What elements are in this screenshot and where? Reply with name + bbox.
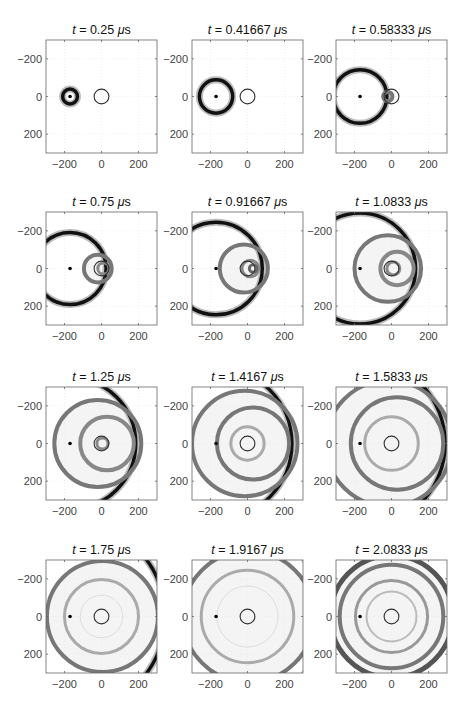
svg-text:0: 0 [36,611,42,623]
svg-text:200: 200 [314,648,332,660]
wavefield-plot: −2000200−2000200 [6,560,157,697]
svg-text:−200: −200 [17,400,42,412]
svg-text:−200: −200 [52,505,77,517]
svg-text:0: 0 [98,158,104,170]
svg-text:−200: −200 [198,678,223,690]
svg-text:0: 0 [182,438,188,450]
svg-text:0: 0 [326,91,332,103]
wavefield-plot: −2000200−2000200 [296,387,447,524]
svg-text:0: 0 [98,330,104,342]
subplot-panel: t = 1.4167 μs−2000200−2000200 [192,387,303,500]
svg-text:200: 200 [129,158,147,170]
svg-text:0: 0 [36,91,42,103]
wavefield-plot: −2000200−2000200 [6,40,157,177]
svg-text:−200: −200 [342,505,367,517]
svg-text:−200: −200 [307,53,332,65]
svg-text:0: 0 [244,505,250,517]
wavefield-plot: −2000200−2000200 [296,212,447,349]
svg-text:0: 0 [388,678,394,690]
svg-text:−200: −200 [307,400,332,412]
svg-text:−200: −200 [342,330,367,342]
subplot-panel: t = 1.0833 μs−2000200−2000200 [336,212,447,325]
subplot-title: t = 1.4167 μs [178,370,318,384]
subplot-panel: t = 2.0833 μs−2000200−2000200 [336,560,447,673]
svg-text:200: 200 [314,475,332,487]
svg-text:−200: −200 [198,505,223,517]
svg-text:0: 0 [36,263,42,275]
svg-text:200: 200 [129,505,147,517]
svg-text:200: 200 [419,158,437,170]
svg-text:200: 200 [170,648,188,660]
subplot-title: t = 2.0833 μs [322,543,462,557]
svg-text:200: 200 [129,678,147,690]
subplot-panel: t = 0.91667 μs−2000200−2000200 [192,212,303,325]
svg-text:0: 0 [182,263,188,275]
svg-text:0: 0 [388,505,394,517]
wavefield-plot: −2000200−2000200 [152,40,303,177]
subplot-title: t = 1.25 μs [32,370,172,384]
svg-text:200: 200 [419,330,437,342]
svg-text:200: 200 [275,678,293,690]
subplot-panel: t = 0.58333 μs−2000200−2000200 [336,40,447,153]
svg-text:−200: −200 [52,158,77,170]
wavefield-plot: −2000200−2000200 [152,387,303,524]
subplot-title: t = 0.58333 μs [322,23,462,37]
subplot-title: t = 1.9167 μs [178,543,318,557]
subplot-title: t = 0.41667 μs [178,23,318,37]
svg-text:−200: −200 [17,573,42,585]
subplot-panel: t = 1.25 μs−2000200−2000200 [46,387,157,500]
svg-text:200: 200 [24,128,42,140]
svg-text:−200: −200 [342,158,367,170]
subplot-panel: t = 0.25 μs−2000200−2000200 [46,40,157,153]
wavefield-plot: −2000200−2000200 [152,560,303,697]
svg-text:−200: −200 [198,158,223,170]
svg-text:−200: −200 [52,678,77,690]
svg-text:200: 200 [275,330,293,342]
subplot-title: t = 0.75 μs [32,195,172,209]
svg-text:0: 0 [244,678,250,690]
svg-text:−200: −200 [163,400,188,412]
svg-text:200: 200 [275,505,293,517]
svg-text:200: 200 [24,648,42,660]
svg-text:−200: −200 [342,678,367,690]
svg-text:−200: −200 [163,225,188,237]
svg-text:−200: −200 [163,53,188,65]
svg-text:−200: −200 [198,330,223,342]
subplot-title: t = 0.25 μs [32,23,172,37]
subplot-panel: t = 0.41667 μs−2000200−2000200 [192,40,303,153]
wavefield-plot: −2000200−2000200 [6,212,157,349]
svg-text:0: 0 [98,505,104,517]
wavefield-plot: −2000200−2000200 [296,560,447,697]
subplot-panel: t = 1.9167 μs−2000200−2000200 [192,560,303,673]
svg-text:0: 0 [98,678,104,690]
svg-text:200: 200 [314,300,332,312]
svg-text:200: 200 [24,300,42,312]
svg-text:200: 200 [275,158,293,170]
svg-text:0: 0 [326,611,332,623]
svg-text:200: 200 [419,505,437,517]
subplot-title: t = 0.91667 μs [178,195,318,209]
svg-text:200: 200 [170,300,188,312]
svg-text:200: 200 [419,678,437,690]
svg-text:−200: −200 [52,330,77,342]
subplot-title: t = 1.5833 μs [322,370,462,384]
svg-text:200: 200 [314,128,332,140]
svg-text:−200: −200 [17,53,42,65]
svg-text:0: 0 [244,330,250,342]
svg-text:200: 200 [24,475,42,487]
svg-text:0: 0 [326,263,332,275]
svg-text:200: 200 [170,475,188,487]
svg-text:0: 0 [182,611,188,623]
svg-text:0: 0 [36,438,42,450]
wavefield-plot: −2000200−2000200 [6,387,157,524]
subplot-panel: t = 0.75 μs−2000200−2000200 [46,212,157,325]
svg-text:0: 0 [388,330,394,342]
svg-text:−200: −200 [163,573,188,585]
svg-text:0: 0 [244,158,250,170]
subplot-title: t = 1.0833 μs [322,195,462,209]
svg-text:200: 200 [129,330,147,342]
svg-text:200: 200 [170,128,188,140]
wavefield-plot: −2000200−2000200 [152,212,303,349]
svg-text:0: 0 [388,158,394,170]
svg-text:0: 0 [182,91,188,103]
